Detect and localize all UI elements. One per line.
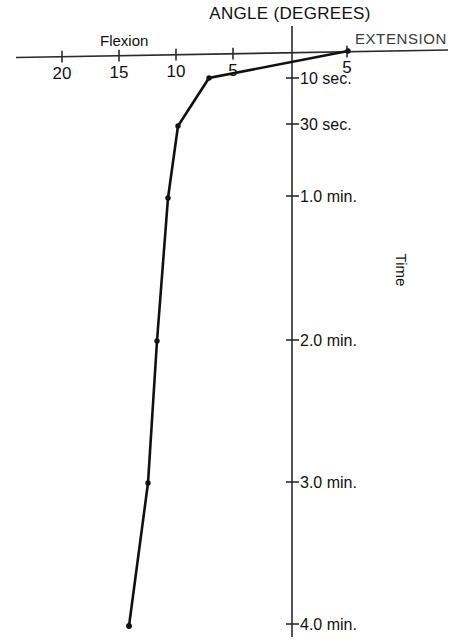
x-tick-label-15: 15 — [110, 63, 129, 82]
data-point-30sec — [175, 123, 180, 128]
data-point-4min — [126, 623, 132, 629]
y-axis-title: Time — [393, 254, 410, 287]
chart-title: ANGLE (DEGREES) — [209, 4, 370, 23]
y-tick-label-30sec: 30 sec. — [300, 116, 352, 133]
y-tick-label-1min: 1.0 min. — [300, 188, 357, 205]
x-axis-right-label: EXTENSION — [355, 30, 447, 47]
data-point-0sec — [345, 48, 350, 53]
x-axis-left-label: Flexion — [100, 32, 148, 49]
data-point-1min — [165, 195, 170, 200]
x-tick-label-5-flexion: 5 — [228, 61, 237, 80]
x-tick-label-10: 10 — [167, 62, 186, 81]
y-tick-label-2min: 2.0 min. — [300, 332, 357, 349]
x-axis-line — [16, 50, 448, 58]
chart-figure: ANGLE (DEGREES) EXTENSION Flexion 20 15 … — [0, 0, 452, 643]
data-point-2min — [154, 338, 159, 343]
x-tick-label-20: 20 — [53, 64, 72, 83]
data-point-10sec — [206, 75, 211, 80]
angle-vs-time-plot: ANGLE (DEGREES) EXTENSION Flexion 20 15 … — [0, 0, 452, 643]
y-tick-label-3min: 3.0 min. — [300, 474, 357, 491]
y-tick-label-4min: 4.0 min. — [300, 616, 357, 633]
data-point-3min — [145, 480, 150, 485]
y-tick-label-10sec: 10 sec. — [300, 70, 352, 87]
